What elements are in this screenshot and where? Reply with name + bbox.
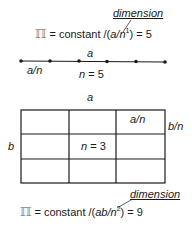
cell-height-label: b/n bbox=[168, 120, 183, 132]
grid-width-label: a bbox=[87, 91, 93, 103]
pi-symbol: ℿ bbox=[20, 205, 31, 219]
pi-symbol: ℿ bbox=[35, 27, 46, 41]
n-label-top: n = 5 bbox=[79, 68, 104, 80]
dimension-label-bottom: dimension bbox=[130, 188, 180, 200]
line-length-label: a bbox=[87, 47, 93, 59]
grid-height-label: b bbox=[8, 140, 14, 152]
segment-line bbox=[21, 61, 165, 62]
cell-width-label: a/n bbox=[130, 113, 145, 125]
segment-length-label: a/n bbox=[27, 64, 42, 76]
n-label-bottom: n = 3 bbox=[81, 140, 106, 152]
formula-top: ℿ = constant /(a/n1) = 5 bbox=[35, 27, 152, 41]
formula-bottom: ℿ = constant /(ab/n2) = 9 bbox=[20, 205, 143, 219]
dimension-label-top: dimension bbox=[113, 7, 163, 19]
